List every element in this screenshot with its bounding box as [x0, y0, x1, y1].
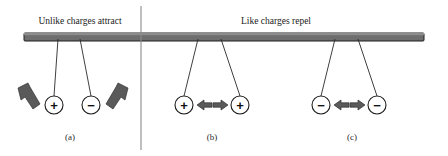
thread-positive-b-right — [221, 39, 240, 96]
force-arrow-b-left-outward — [197, 100, 212, 110]
thread-negative-c-left — [321, 39, 335, 96]
thread-negative-c-right — [358, 39, 377, 96]
charge-positive-b-right-sign: + — [236, 98, 244, 113]
force-arrow-right-inward — [106, 83, 128, 109]
force-arrow-b-right-outward — [213, 100, 228, 110]
figure-canvas: Unlike charges attract Like charges repe… — [0, 0, 448, 156]
panel-label-c: (c) — [347, 132, 357, 142]
force-arrow-c-right-outward — [350, 100, 365, 110]
panel-label-a: (a) — [65, 132, 75, 142]
charge-positive-a-sign: + — [50, 98, 58, 113]
force-arrow-left-inward — [18, 83, 40, 109]
support-bar-highlight — [24, 33, 424, 35]
thread-positive-a — [54, 39, 58, 96]
charge-negative-c-left-sign: − — [317, 98, 325, 113]
heading-unlike-charges-attract: Unlike charges attract — [38, 16, 122, 26]
charge-interaction-figure: Unlike charges attract Like charges repe… — [0, 0, 448, 156]
heading-like-charges-repel: Like charges repel — [241, 16, 311, 26]
panel-c: − − (c) — [312, 39, 386, 142]
charge-positive-b-left-sign: + — [180, 98, 188, 113]
force-arrow-c-left-outward — [334, 100, 349, 110]
charge-negative-a-sign: − — [87, 98, 95, 113]
thread-positive-b-left — [184, 39, 198, 96]
panel-b: + + (b) — [175, 39, 249, 142]
thread-negative-a — [80, 39, 91, 96]
panel-a: + − (a) — [18, 39, 128, 142]
panel-label-b: (b) — [207, 132, 218, 142]
charge-negative-c-right-sign: − — [373, 98, 381, 113]
